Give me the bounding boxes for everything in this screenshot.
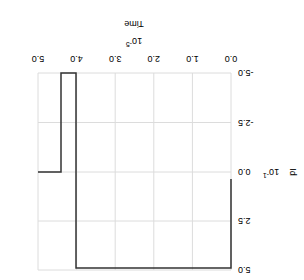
series-id-line (38, 73, 231, 268)
x-axis-label: Time (124, 19, 144, 29)
y-tick: -2.5 (238, 118, 254, 128)
line-chart: 5.0 2.5 0.0 -2.5 -5.0 0.0 1.0 2.0 3.0 4.… (0, 0, 304, 280)
y-tick: 2.5 (238, 216, 251, 226)
x-tick: 4.0 (70, 54, 83, 64)
x-tick: 3.0 (109, 54, 122, 64)
y-tick: 5.0 (238, 265, 251, 275)
grid (38, 73, 231, 270)
x-tick-labels: 0.0 1.0 2.0 3.0 4.0 5.0 (32, 54, 238, 64)
y-tick: -5.0 (238, 68, 254, 78)
x-axis-multiplier: 10-5 (126, 36, 142, 48)
x-tick: 0.0 (225, 54, 238, 64)
x-tick: 2.0 (148, 54, 161, 64)
y-axis-label: Id (288, 168, 298, 176)
x-tick: 5.0 (32, 54, 45, 64)
y-axis-multiplier: 10-1 (263, 167, 279, 179)
y-tick: 0.0 (238, 167, 251, 177)
chart-stage: 5.0 2.5 0.0 -2.5 -5.0 0.0 1.0 2.0 3.0 4.… (0, 0, 304, 280)
y-tick-labels: 5.0 2.5 0.0 -2.5 -5.0 (238, 68, 254, 275)
x-tick: 1.0 (186, 54, 199, 64)
